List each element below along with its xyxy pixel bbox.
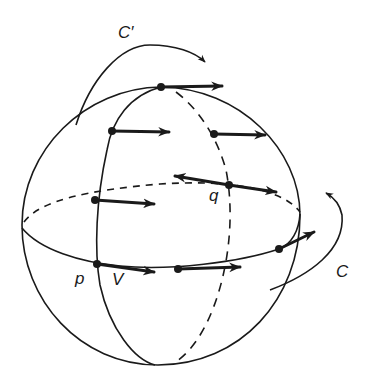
point-front-upper xyxy=(108,127,116,135)
meridian-back xyxy=(174,92,230,363)
sphere-figure xyxy=(0,0,367,388)
vector-q-forward xyxy=(229,185,276,192)
point-north-pole xyxy=(157,83,165,91)
label-c: C xyxy=(336,263,348,280)
sphere-diagram: C′ C p q V xyxy=(0,0,367,388)
meridian-front xyxy=(97,87,161,365)
equator-front xyxy=(22,214,300,267)
point-equator-mid xyxy=(174,265,182,273)
sphere-outline xyxy=(22,87,300,365)
vector-front-mid xyxy=(95,200,154,204)
point-p xyxy=(93,260,101,268)
vector-equator-mid xyxy=(178,267,240,269)
point-equator-right xyxy=(275,245,283,253)
vector-back-upper xyxy=(214,134,265,135)
point-q xyxy=(225,181,233,189)
label-p: p xyxy=(75,270,84,287)
vector-front-upper xyxy=(112,131,169,132)
label-v: V xyxy=(112,271,123,288)
label-q: q xyxy=(209,187,218,204)
vector-north-pole xyxy=(161,86,222,87)
loop-c xyxy=(270,193,342,290)
point-back-upper xyxy=(210,130,218,138)
label-c-prime: C′ xyxy=(118,24,133,41)
point-front-mid xyxy=(91,196,99,204)
loop-c-prime xyxy=(76,45,205,125)
